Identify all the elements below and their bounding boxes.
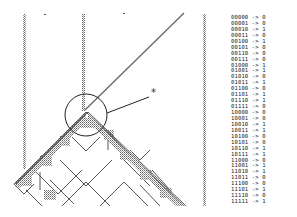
- rule-arrow: ->: [252, 198, 259, 204]
- rule-output: 1: [262, 198, 265, 204]
- cellular-automaton-figure: [0, 0, 225, 217]
- tick-mark: [44, 14, 46, 15]
- rule-row: 11111 -> 1: [231, 199, 295, 205]
- annotation-marker: *: [151, 87, 156, 98]
- particle-trail-center: [82, 14, 85, 111]
- particle-trail-right: [203, 14, 206, 206]
- diagonal-glider-line: [85, 13, 184, 110]
- rule-table: 00000 -> 000001 -> 000010 -> 100011 -> 0…: [231, 15, 295, 205]
- particle-trail-left: [23, 14, 26, 169]
- edge-texture: [14, 112, 184, 206]
- rule-input: 11111: [231, 198, 248, 204]
- tick-mark: [123, 13, 125, 14]
- annotation-pointer: [107, 97, 149, 113]
